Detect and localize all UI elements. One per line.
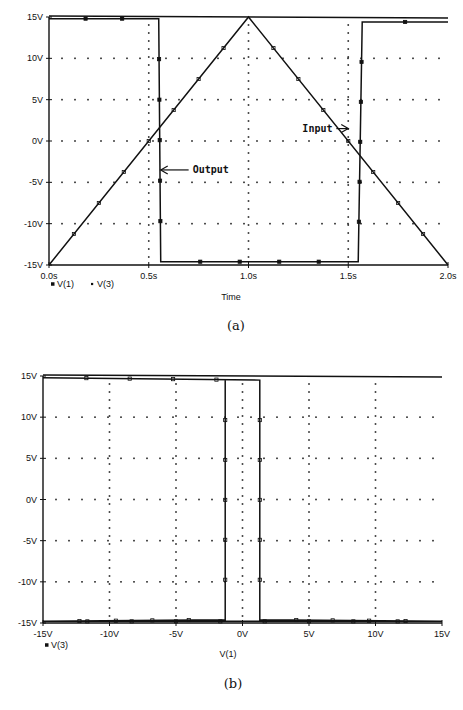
figure-caption: (b)	[224, 676, 242, 691]
y-tick-label: 15V	[27, 12, 43, 22]
annotation-output: Output	[193, 164, 229, 175]
y-tick-label: -10V	[24, 219, 43, 229]
x-tick-label: 10V	[367, 629, 383, 639]
series-v1	[49, 17, 448, 265]
y-tick-label: 10V	[21, 412, 37, 422]
grid	[55, 383, 434, 617]
annotation-input: Input	[302, 123, 332, 134]
grid	[61, 24, 440, 258]
y-tick-label: 5V	[32, 95, 43, 105]
x-tick-label: 15V	[434, 629, 450, 639]
x-tick-label: 0.5s	[140, 271, 158, 281]
x-tick-label: 0.0s	[40, 271, 58, 281]
chart-canvas: 15V10V5V0V-5V-10V-15V0.0s0.5s1.0s1.5s2.0…	[0, 0, 463, 710]
x-axis-label: Time	[221, 292, 241, 302]
chart-b: 15V10V5V0V-5V-10V-15V-15V-10V-5V0V5V10V1…	[18, 371, 450, 691]
y-tick-label: -15V	[24, 260, 43, 270]
x-tick-label: 2.0s	[439, 271, 457, 281]
y-tick-label: -5V	[23, 536, 37, 546]
legend-item: V(1)	[57, 279, 74, 289]
chart-a: 15V10V5V0V-5V-10V-15V0.0s0.5s1.0s1.5s2.0…	[24, 12, 457, 333]
x-tick-label: -10V	[100, 629, 119, 639]
y-tick-label: -15V	[18, 618, 37, 628]
y-tick-label: 15V	[21, 371, 37, 381]
x-tick-label: 1.5s	[340, 271, 358, 281]
y-tick-label: 10V	[27, 53, 43, 63]
figure-caption: (a)	[227, 318, 245, 333]
legend-item: V(3)	[97, 279, 114, 289]
x-tick-label: -15V	[33, 629, 52, 639]
x-tick-label: -5V	[169, 629, 183, 639]
x-tick-label: 5V	[303, 629, 314, 639]
x-axis-label: V(1)	[219, 649, 236, 659]
y-tick-label: -10V	[18, 577, 37, 587]
y-tick-label: 5V	[26, 453, 37, 463]
legend-item: V(3)	[51, 640, 68, 650]
x-tick-label: 1.0s	[240, 271, 258, 281]
y-tick-label: 0V	[26, 495, 37, 505]
y-tick-label: 0V	[32, 136, 43, 146]
y-tick-label: -5V	[29, 177, 43, 187]
x-tick-label: 0V	[237, 629, 248, 639]
